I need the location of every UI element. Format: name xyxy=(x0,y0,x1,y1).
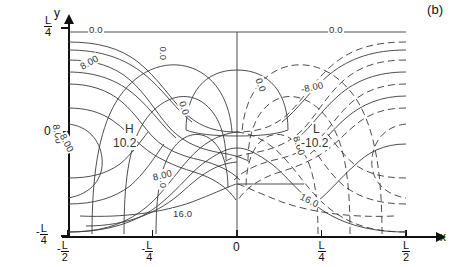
tick-label-y-zero: 0 xyxy=(44,124,51,138)
tick-label-x-minus-l-over-4: -L4 xyxy=(142,240,154,263)
y-tick-y-minus-l-over-4 xyxy=(61,235,68,236)
fraction: L4 xyxy=(318,240,326,263)
extremum-value-low: -10.2 xyxy=(300,136,329,150)
contour-canvas xyxy=(68,28,406,236)
tick-value: 0 xyxy=(44,124,51,138)
extremum-letter-low: L xyxy=(312,122,321,136)
fraction: L2 xyxy=(61,240,69,263)
y-axis-label: y xyxy=(54,6,60,20)
panel-label: (b) xyxy=(427,2,443,17)
contour-8-left-inner xyxy=(68,84,240,180)
denominator: 4 xyxy=(44,27,52,38)
fraction: L4 xyxy=(44,15,52,38)
contour-label-zero-center-top: 0.0 xyxy=(158,46,169,62)
denominator: 4 xyxy=(145,252,153,263)
tick-label-x-minus-l-over-2: -L2 xyxy=(57,240,69,263)
y-axis-arrow-icon xyxy=(64,14,74,24)
tick-label-x-l-over-2: L2 xyxy=(402,240,410,263)
contour-label-zero-top-left: 0.0 xyxy=(88,24,104,35)
fraction: L4 xyxy=(40,223,48,246)
fraction: L2 xyxy=(402,240,410,263)
tick-label-x-zero: 0 xyxy=(233,240,240,254)
contour-label-sixteen-bottom-left: 16.0 xyxy=(172,208,193,219)
y-tick-y-l-over-4 xyxy=(61,27,68,28)
tick-label-y-l-over-4: L4 xyxy=(44,15,52,38)
contour-8-left-outer-b xyxy=(68,144,164,204)
contour-minus8-right-inner-b xyxy=(326,132,406,178)
x-axis-label: x xyxy=(440,230,446,244)
x-axis-line xyxy=(62,236,444,238)
contour-right-edge-lobe xyxy=(372,124,406,198)
fraction: L4 xyxy=(145,240,153,263)
tick-label-y-minus-l-over-4: -L4 xyxy=(36,223,48,246)
tick-value: 0 xyxy=(233,240,240,254)
plot-area xyxy=(68,28,406,236)
tick-label-x-l-over-4: L4 xyxy=(318,240,326,263)
denominator: 4 xyxy=(40,235,48,246)
extremum-letter-high: H xyxy=(124,122,135,136)
denominator: 2 xyxy=(402,252,410,263)
contour-label-zero-top-right: 0.0 xyxy=(328,24,344,35)
denominator: 2 xyxy=(61,252,69,263)
extremum-value-high: 10.2 xyxy=(112,136,137,150)
contour-figure: (b) y x -L2-L40L4L2L40-L4 xyxy=(0,0,451,267)
denominator: 4 xyxy=(318,252,326,263)
